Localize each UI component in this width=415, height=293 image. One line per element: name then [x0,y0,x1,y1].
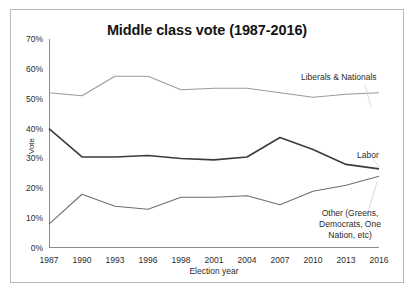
y-tick-label: 60% [26,64,43,74]
x-tick-label: 2004 [238,255,257,265]
leader-liberals [365,85,371,107]
x-tick-label: 2016 [370,255,389,265]
x-tick-label: 2013 [337,255,356,265]
x-tick-label: 2007 [271,255,290,265]
y-tick-label: 30% [26,153,43,163]
chart-title: Middle class vote (1987-2016) [11,22,403,38]
x-axis-title: Election year [49,266,379,276]
y-tick-label: 50% [26,94,43,104]
series-label-labor: Labor [357,150,379,161]
y-axis-title: Vote [27,138,36,154]
series-label-other: Other (Greens, Democrats, One Nation, et… [302,208,398,241]
y-tick-label: 70% [26,34,43,44]
series-line [49,129,379,169]
x-tick-label: 1990 [73,255,92,265]
x-tick-label: 1998 [172,255,191,265]
x-tick-label: 1996 [139,255,158,265]
x-tick-label: 2010 [304,255,323,265]
y-tick-label: 40% [26,124,43,134]
chart-figure: Middle class vote (1987-2016) Vote 70%60… [10,9,404,283]
y-tick-label: 10% [26,213,43,223]
x-tick-label: 1987 [40,255,59,265]
x-tick-label: 2001 [205,255,224,265]
plot-area: 70%60%50%40%30%20%10%0% 1987199019931996… [49,39,379,248]
series-label-liberals-nationals: Liberals & Nationals [301,72,377,83]
x-tick-label: 1993 [106,255,125,265]
y-tick-label: 20% [26,183,43,193]
y-tick-label: 0% [31,243,43,253]
